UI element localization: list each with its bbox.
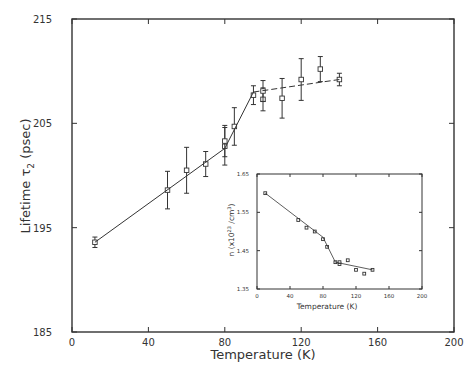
inset-x-tick-label: 80 (320, 293, 327, 299)
x-tick-label: 40 (142, 337, 155, 348)
inset-x-tick-label: 120 (351, 293, 362, 299)
y-axis-title-text: Lifetime τ (18, 169, 33, 234)
y-tick-label: 215 (33, 14, 52, 25)
inset-y-tick-label: 1.65 (237, 171, 250, 177)
y-tick-label: 185 (33, 327, 52, 338)
inset-x-tick-label: 160 (384, 293, 395, 299)
inset-y-tick-label: 1.35 (237, 286, 250, 292)
data-point-marker (280, 96, 285, 101)
y-axis-title: Lifetime τ2 (psec) (18, 119, 36, 234)
y-tick-label: 195 (33, 223, 52, 234)
inset-data-point-marker (346, 259, 349, 262)
inset-x-tick-label: 40 (287, 293, 294, 299)
inset-data-point-marker (363, 272, 366, 275)
inset-x-axis-title: Temperature (K) (296, 302, 358, 311)
data-point-marker (318, 67, 323, 72)
inset-data-point-marker (305, 226, 308, 229)
y-axis-title-unit: (psec) (18, 119, 33, 163)
inset-plot-frame (257, 174, 422, 289)
inset-x-tick-label: 200 (417, 293, 428, 299)
inset-data-point-marker (355, 268, 358, 271)
inset-y-tick-label: 1.45 (237, 248, 250, 254)
x-tick-label: 200 (444, 337, 463, 348)
inset-x-tick-label: 0 (255, 293, 259, 299)
inset-y-tick-label: 1.55 (237, 209, 250, 215)
data-point-marker (184, 168, 189, 173)
y-tick-label: 205 (33, 118, 52, 129)
x-tick-label: 160 (368, 337, 387, 348)
x-axis-title: Temperature (K) (209, 347, 315, 362)
data-point-marker (223, 139, 228, 144)
chart-canvas: 04080120160200185195205215Temperature (K… (0, 0, 473, 377)
data-point-marker (299, 77, 304, 82)
x-tick-label: 0 (69, 337, 75, 348)
